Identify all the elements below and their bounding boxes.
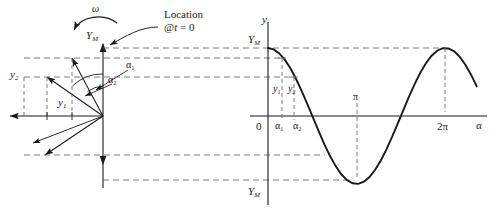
plot-sample-label-y2: y2 (288, 84, 296, 95)
xtick-a1-sub: 1 (280, 125, 283, 132)
phasor-projection2-label: y2 (10, 69, 18, 82)
plot-xtick-pi: π (353, 92, 358, 102)
plot-origin-label: 0 (256, 121, 262, 132)
angle-arc-alpha2 (73, 74, 104, 86)
figure-root: ω YM Location @t = 0 α1 α2 y2 y1 y α 0 Y… (0, 0, 496, 215)
location-annotation-line1: Location (164, 9, 203, 20)
ytick-trough-sub: M (254, 191, 260, 198)
xtick-a2-sub: 2 (298, 125, 301, 132)
ytick-peak-sub: M (254, 39, 260, 46)
phasor-diagram (10, 17, 158, 188)
omega-label: ω (92, 4, 99, 14)
annotation-at-sign: @ (164, 21, 174, 33)
proj2-sub: 2 (15, 74, 18, 81)
plot-x-axis-label: α (476, 120, 482, 131)
plot-xtick-alpha1: α1 (275, 121, 283, 132)
plot-xtick-alpha2: α2 (293, 121, 301, 132)
alpha1-sub: 1 (131, 64, 134, 71)
phasor-peak-label: YM (86, 30, 98, 43)
location-annotation-line2: @t = 0 (164, 22, 194, 33)
waveform-plot (250, 22, 487, 205)
phasor-peak-sub: M (92, 35, 98, 42)
phasor-vector-3 (45, 116, 103, 155)
phasor-reference-arrowhead (100, 43, 107, 52)
sample-y1-sub: 1 (277, 88, 280, 95)
annotation-eq0: = 0 (177, 21, 194, 33)
plot-ytick-peak: YM (248, 34, 260, 47)
phasor-vector-2 (47, 77, 103, 116)
proj1-sub: 1 (63, 102, 66, 109)
phasor-angle1-label: α1 (126, 60, 134, 71)
location-annotation-leader (110, 27, 158, 45)
omega-rotation-arrow (74, 17, 117, 30)
plot-y-axis-label: y (262, 14, 267, 25)
phasor-negative-arrowhead (100, 156, 107, 165)
plot-ytick-trough: YM (248, 186, 260, 199)
plot-xtick-2pi: 2π (437, 121, 448, 132)
sample-y2-sub: 2 (292, 88, 295, 95)
phasor-projection1-label: y1 (58, 97, 66, 110)
phasor-angle2-label: α2 (108, 75, 116, 86)
plot-sample-label-y1: y1 (273, 84, 281, 95)
alpha2-sub: 2 (113, 79, 116, 86)
